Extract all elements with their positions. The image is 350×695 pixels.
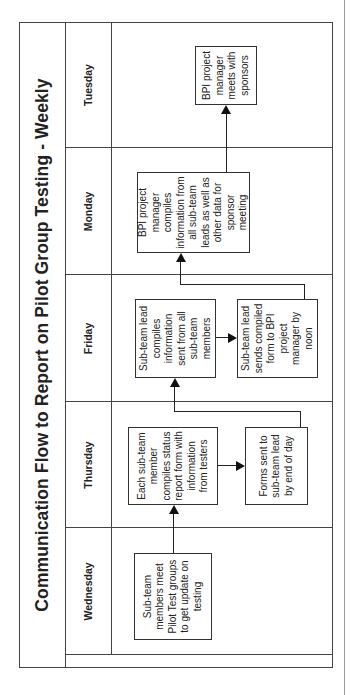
step-monday-compile: BPI project manager compiles information… — [137, 172, 250, 253]
connector-wed-thu — [173, 513, 174, 553]
arrow-right-icon — [170, 378, 180, 387]
diagram-title: Communication Flow to Report on Pilot Gr… — [19, 22, 65, 668]
step-wednesday-meet: Sub-team members meet Pilot Test groups … — [134, 553, 212, 640]
connector-fri-mon-c — [180, 261, 181, 285]
page-edge-line — [344, 0, 345, 695]
connector-thu-fri-a — [300, 412, 301, 427]
lane-header-wednesday: Wednesday — [65, 528, 111, 655]
arrow-right-icon — [169, 505, 179, 514]
lane-header-monday: Monday — [65, 148, 111, 275]
arrow-down-icon — [236, 461, 245, 471]
connector-thu-fri-b — [174, 411, 301, 412]
connector-mon-tue — [226, 113, 227, 172]
arrow-down-icon — [228, 333, 237, 343]
arrow-right-icon — [221, 105, 231, 114]
step-thursday-send: Forms sent to sub-team lead by end of da… — [245, 427, 308, 505]
arrow-right-icon — [176, 253, 186, 262]
step-thursday-compile: Each sub-team member compiles status rep… — [128, 427, 218, 505]
connector-fri-mon-a — [304, 285, 305, 299]
step-tuesday-meet: BPI project manager meets with sponsors — [195, 46, 257, 105]
header-separator — [111, 22, 112, 655]
lane-header-tuesday: Tuesday — [65, 22, 111, 148]
lane-header-friday: Friday — [65, 275, 111, 402]
step-friday-compile: Sub-team lead compiles information sent … — [135, 299, 216, 378]
connector-thu-compile-send — [218, 465, 237, 466]
connector-fri-mon-b — [180, 284, 305, 285]
step-friday-send: Sub-team lead sends compiled form to BPI… — [237, 299, 318, 378]
swimlane-diagram: Communication Flow to Report on Pilot Gr… — [0, 0, 350, 695]
connector-thu-fri-c — [174, 387, 175, 412]
lane-header-thursday: Thursday — [65, 402, 111, 528]
